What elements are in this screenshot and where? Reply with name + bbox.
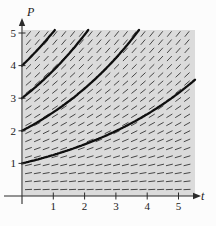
y-tick-label: 1 (11, 157, 17, 169)
slope-field-plot: 12345 12345 P t (0, 0, 216, 226)
y-axis-tick-labels: 12345 (11, 27, 17, 169)
y-axis-label: P (26, 5, 35, 19)
x-tick-label: 1 (51, 200, 57, 212)
y-tick-label: 2 (11, 125, 17, 137)
y-axis-arrow-icon (19, 18, 25, 26)
y-tick-label: 5 (11, 27, 17, 39)
x-axis-arrow-icon (193, 193, 201, 199)
y-tick-label: 4 (11, 59, 17, 71)
x-axis-label: t (201, 189, 205, 203)
plot-area-background (23, 30, 195, 196)
y-tick-label: 3 (11, 92, 17, 104)
x-tick-label: 5 (176, 200, 182, 212)
x-tick-label: 2 (82, 200, 88, 212)
x-tick-label: 3 (113, 200, 119, 212)
direction-field-figure: 12345 12345 P t (0, 0, 216, 226)
x-axis-tick-labels: 12345 (51, 200, 182, 212)
x-tick-label: 4 (144, 200, 150, 212)
